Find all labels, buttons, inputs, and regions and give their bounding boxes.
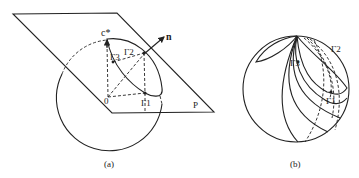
figure-b: Γ2 Γ3 Γ1 (b) bbox=[243, 36, 349, 169]
gamma2-point bbox=[142, 51, 145, 54]
figure-a: c* n Γ3 Γ2 Γ1 0 P (a) bbox=[13, 13, 214, 169]
normal-label: n bbox=[166, 31, 172, 42]
origin-gamma1-line bbox=[108, 93, 145, 97]
gamma2-label-b: Γ2 bbox=[331, 44, 341, 54]
caption-b: (b) bbox=[290, 159, 301, 169]
gamma2-label: Γ2 bbox=[124, 47, 134, 57]
gamma3-label-b: Γ3 bbox=[290, 58, 300, 68]
caption-a: (a) bbox=[104, 159, 114, 169]
diagram-canvas: c* n Γ3 Γ2 Γ1 0 P (a) Γ2 Γ3 Γ1 (b) bbox=[0, 0, 359, 178]
gamma1-point-b bbox=[329, 90, 332, 93]
intersection-ellipse bbox=[107, 39, 162, 96]
gamma1-label: Γ1 bbox=[141, 98, 151, 108]
c-star-axis bbox=[107, 44, 108, 97]
gamma1-label-b: Γ1 bbox=[326, 96, 336, 106]
sphere-dashed-arc-right bbox=[160, 96, 162, 104]
origin-label: 0 bbox=[104, 96, 109, 106]
gamma3-label: Γ3 bbox=[110, 52, 120, 62]
plane-label: P bbox=[193, 100, 198, 110]
c-star-label: c* bbox=[101, 27, 110, 38]
sphere-dashed-arc bbox=[62, 40, 107, 74]
gamma1-point bbox=[143, 91, 146, 94]
gamma2-gamma1-line bbox=[144, 53, 145, 93]
